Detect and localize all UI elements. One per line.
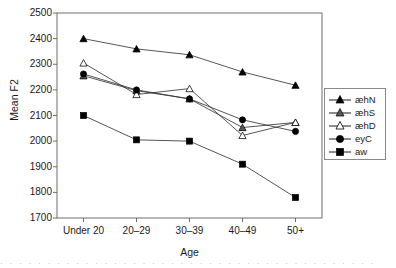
chart-legend: æhN æhS æhD eyC xyxy=(324,88,386,160)
x-tick-label: Under 20 xyxy=(54,225,114,236)
data-point xyxy=(133,87,139,93)
data-point xyxy=(186,96,192,102)
legend-marker-filled-circle-icon xyxy=(328,133,352,145)
y-tick-label: 2400 xyxy=(18,33,52,44)
page-caption-fragment: · · · · · · · · · · · · · · · · · · · · … xyxy=(0,258,396,268)
plot-frame xyxy=(57,13,322,218)
legend-item-aw[interactable]: aw xyxy=(325,145,385,158)
legend-marker-filled-square-icon xyxy=(328,146,352,158)
y-tick-label: 2500 xyxy=(18,7,52,18)
y-tick-label: 1800 xyxy=(18,186,52,197)
data-point xyxy=(293,195,299,201)
legend-label-aehn: æhN xyxy=(352,94,376,106)
data-point xyxy=(80,60,87,67)
data-point xyxy=(134,137,140,143)
chart-container: Mean F2 Age 1700180019002000210022002300… xyxy=(0,0,396,268)
x-tick-label: 40–49 xyxy=(213,225,273,236)
legend-item-aehd[interactable]: æhD xyxy=(325,119,385,132)
y-tick-label: 2300 xyxy=(18,58,52,69)
legend-marker-filled-triangle-icon xyxy=(328,94,352,106)
data-point xyxy=(239,69,246,76)
data-point xyxy=(292,82,299,89)
data-point xyxy=(80,71,86,77)
data-point xyxy=(187,138,193,144)
series-aw xyxy=(81,113,299,201)
legend-label-eyc: eyC xyxy=(352,133,372,145)
data-point xyxy=(240,161,246,167)
legend-label-aehd: æhD xyxy=(352,120,376,132)
legend-label-aw: aw xyxy=(352,146,367,158)
y-tick-label: 2000 xyxy=(18,135,52,146)
y-tick-label: 2200 xyxy=(18,84,52,95)
x-tick-label: 30–39 xyxy=(160,225,220,236)
data-point xyxy=(80,35,87,42)
x-tick-label: 20–29 xyxy=(107,225,167,236)
data-point xyxy=(292,128,298,134)
y-tick-label: 1700 xyxy=(18,212,52,223)
legend-marker-open-triangle-icon xyxy=(328,120,352,132)
data-point xyxy=(239,117,245,123)
legend-item-eyc[interactable]: eyC xyxy=(325,132,385,145)
y-tick-label: 1900 xyxy=(18,161,52,172)
legend-marker-gray-triangle-icon xyxy=(328,107,352,119)
legend-item-aehs[interactable]: æhS xyxy=(325,106,385,119)
legend-item-aehn[interactable]: æhN xyxy=(325,93,385,106)
x-axis-title: Age xyxy=(57,246,322,258)
y-tick-label: 2100 xyxy=(18,110,52,121)
legend-label-aehs: æhS xyxy=(352,107,375,119)
x-tick-label: 50+ xyxy=(266,225,326,236)
data-point xyxy=(81,113,87,119)
y-axis-title: Mean F2 xyxy=(8,60,20,140)
data-point xyxy=(186,85,193,92)
